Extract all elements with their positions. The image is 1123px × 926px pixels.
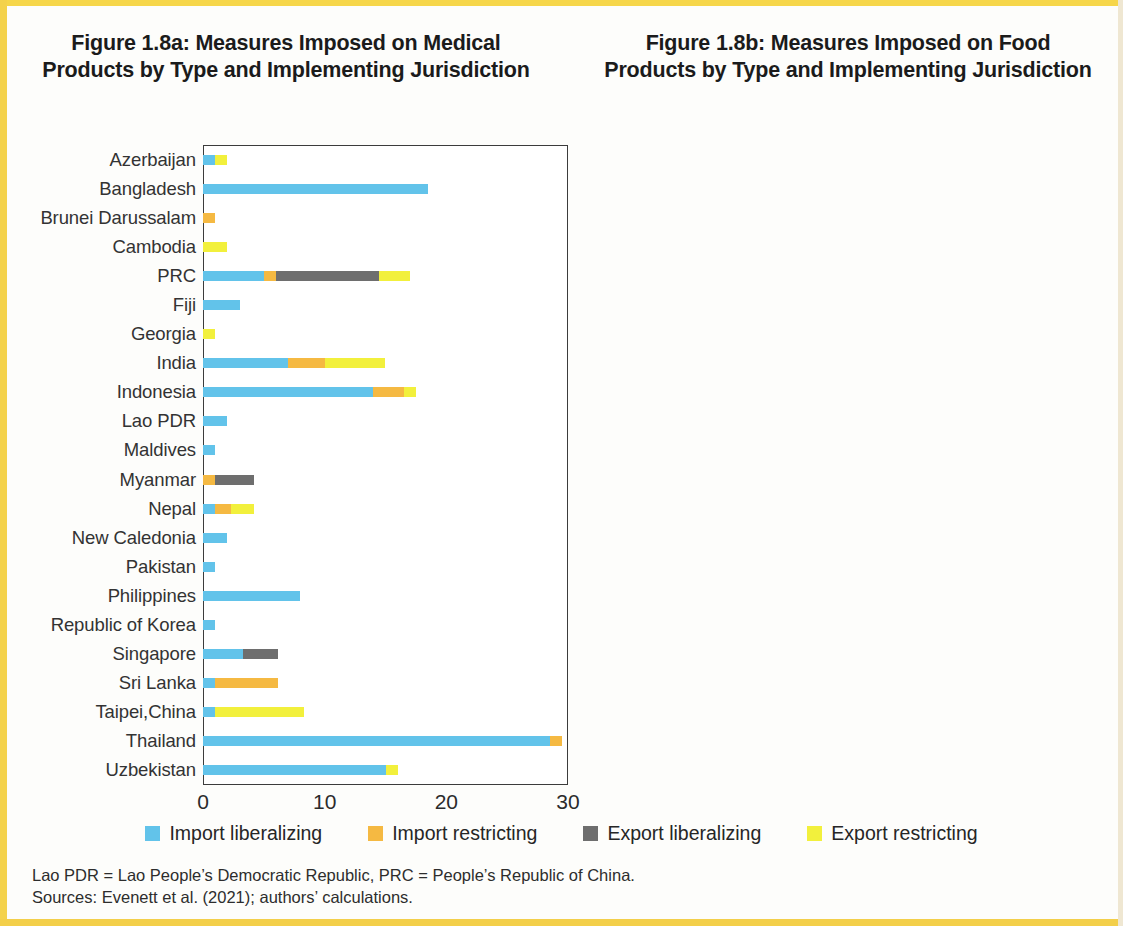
category-label: Myanmar — [120, 469, 196, 491]
charts-row: Figure 1.8a: Measures Imposed on Medical… — [0, 0, 1123, 812]
legend-swatch-icon — [807, 826, 822, 841]
bar-row — [203, 329, 568, 339]
bar-row — [203, 504, 568, 514]
chart-title-b: Figure 1.8b: Measures Imposed on Food Pr… — [580, 0, 1123, 84]
category-label: Lao PDR — [122, 410, 196, 432]
bar-segment — [203, 184, 428, 194]
bar-segment — [203, 445, 215, 455]
bar-segment — [386, 765, 398, 775]
legend-swatch-icon — [583, 826, 598, 841]
bar-segment — [288, 358, 325, 368]
bar-segment — [404, 387, 416, 397]
legend-item: Export liberalizing — [583, 822, 761, 845]
bar-row — [203, 765, 568, 775]
category-label: India — [156, 352, 196, 374]
bar-segment — [203, 271, 264, 281]
bar-row — [203, 475, 568, 485]
bar-segment — [203, 475, 215, 485]
bar-segment — [276, 271, 379, 281]
bar-segment — [203, 707, 215, 717]
category-label: Taipei,China — [95, 701, 196, 723]
bar-segment — [373, 387, 403, 397]
category-label: New Caledonia — [72, 527, 196, 549]
bar-segment — [215, 155, 227, 165]
chart-figure-1-8a: Figure 1.8a: Measures Imposed on Medical… — [0, 0, 580, 812]
bar-segment — [203, 591, 300, 601]
bar-row — [203, 213, 568, 223]
bar-segment — [325, 358, 386, 368]
category-label: Bangladesh — [99, 178, 196, 200]
bar-segment — [203, 416, 227, 426]
legend-label: Export liberalizing — [607, 822, 761, 845]
category-label: Republic of Korea — [51, 614, 196, 636]
bar-segment — [215, 504, 231, 514]
plot-area-a — [203, 145, 568, 785]
bar-row — [203, 358, 568, 368]
category-label: Singapore — [113, 643, 196, 665]
legend-label: Export restricting — [831, 822, 977, 845]
bar-segment — [203, 300, 240, 310]
bar-segment — [203, 242, 227, 252]
category-label: Azerbaijan — [110, 149, 196, 171]
bar-segment — [550, 736, 562, 746]
bar-row — [203, 300, 568, 310]
category-label: Uzbekistan — [105, 759, 196, 781]
chart-figure-1-8b: Figure 1.8b: Measures Imposed on Food Pr… — [580, 0, 1123, 812]
bar-segment — [203, 155, 215, 165]
bar-segment — [203, 678, 215, 688]
bar-row — [203, 416, 568, 426]
legend-label: Import restricting — [392, 822, 537, 845]
bar-row — [203, 387, 568, 397]
category-label: Pakistan — [126, 556, 196, 578]
bar-row — [203, 678, 568, 688]
legend-item: Export restricting — [807, 822, 977, 845]
bar-segment — [203, 649, 243, 659]
x-tick-label: 30 — [556, 790, 579, 814]
category-label: Fiji — [173, 294, 196, 316]
bar-row — [203, 533, 568, 543]
bar-segment — [203, 387, 373, 397]
footnotes: Lao PDR = Lao People’s Democratic Republ… — [32, 864, 792, 908]
chart-title-a: Figure 1.8a: Measures Imposed on Medical… — [0, 0, 580, 84]
bar-row — [203, 155, 568, 165]
bar-segment — [215, 678, 278, 688]
x-tick-label: 20 — [435, 790, 458, 814]
figure-page: Figure 1.8a: Measures Imposed on Medical… — [0, 0, 1123, 926]
bar-segment — [215, 475, 254, 485]
category-label: Sri Lanka — [119, 672, 196, 694]
bar-segment — [203, 533, 227, 543]
bar-segment — [203, 562, 215, 572]
legend-swatch-icon — [368, 826, 383, 841]
bar-row — [203, 707, 568, 717]
bar-segment — [203, 358, 288, 368]
bar-row — [203, 562, 568, 572]
legend-label: Import liberalizing — [169, 822, 322, 845]
bar-segment — [231, 504, 254, 514]
legend-item: Import liberalizing — [145, 822, 322, 845]
page-edge-bottom — [0, 919, 1123, 926]
category-label: Philippines — [108, 585, 196, 607]
legend: Import liberalizingImport restrictingExp… — [0, 822, 1123, 845]
bar-row — [203, 445, 568, 455]
bar-row — [203, 620, 568, 630]
bar-row — [203, 184, 568, 194]
bar-segment — [203, 504, 215, 514]
category-label: Cambodia — [112, 236, 196, 258]
bar-row — [203, 591, 568, 601]
bar-segment — [243, 649, 278, 659]
bar-row — [203, 242, 568, 252]
bar-row — [203, 736, 568, 746]
bar-series-a — [203, 145, 568, 785]
x-tick-label: 10 — [313, 790, 336, 814]
legend-item: Import restricting — [368, 822, 537, 845]
bar-segment — [203, 329, 215, 339]
legend-swatch-icon — [145, 826, 160, 841]
bar-segment — [203, 620, 215, 630]
bar-segment — [203, 765, 386, 775]
bar-segment — [215, 707, 304, 717]
bar-row — [203, 649, 568, 659]
category-label: Brunei Darussalam — [40, 207, 196, 229]
category-label: PRC — [157, 265, 196, 287]
footnote-abbreviations: Lao PDR = Lao People’s Democratic Republ… — [32, 864, 792, 886]
x-tick-label: 0 — [197, 790, 209, 814]
